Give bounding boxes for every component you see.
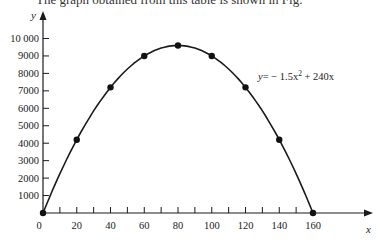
y-tick-label: 2000: [18, 173, 39, 184]
y-axis-label: y: [30, 9, 36, 21]
data-point: [107, 84, 113, 90]
data-point: [310, 210, 316, 216]
axes: [40, 11, 374, 217]
y-tick-label: 4000: [18, 138, 39, 149]
data-point: [40, 210, 46, 216]
eq-main: = − 1.5x: [263, 71, 299, 82]
x-axis-label: x: [365, 223, 371, 235]
data-points: [40, 42, 316, 216]
x-tick-label: 60: [139, 220, 150, 231]
x-axis-ticks: 020406080100120140160: [36, 207, 321, 231]
x-tick-label: 120: [238, 220, 254, 231]
data-point: [175, 42, 181, 48]
y-tick-label: 5000: [18, 120, 39, 131]
data-point: [276, 137, 282, 143]
eq-rest: + 240x: [302, 71, 335, 82]
x-tick-label: 140: [271, 220, 287, 231]
x-axis-arrow-icon: [364, 210, 373, 217]
data-point: [141, 53, 147, 59]
y-tick-label: 8000: [18, 68, 39, 79]
y-tick-label: 3000: [18, 155, 39, 166]
x-tick-label: 0: [36, 220, 41, 231]
data-point: [74, 137, 80, 143]
data-point: [209, 53, 215, 59]
y-tick-label: 1000: [18, 190, 39, 201]
equation-label: y= − 1.5x2 + 240x: [257, 69, 335, 82]
x-tick-label: 40: [105, 220, 116, 231]
data-point: [242, 84, 248, 90]
y-tick-label: 10 000: [10, 33, 39, 44]
y-tick-label: 6000: [18, 103, 39, 114]
y-axis-arrow-icon: [40, 11, 47, 20]
x-tick-label: 80: [173, 220, 184, 231]
x-tick-label: 20: [72, 220, 83, 231]
y-tick-label: 9000: [18, 50, 39, 61]
x-tick-label: 100: [204, 220, 220, 231]
parabola-chart: 10002000300040005000600070008000900010 0…: [0, 0, 383, 243]
y-tick-label: 7000: [18, 85, 39, 96]
x-tick-label: 160: [305, 220, 321, 231]
